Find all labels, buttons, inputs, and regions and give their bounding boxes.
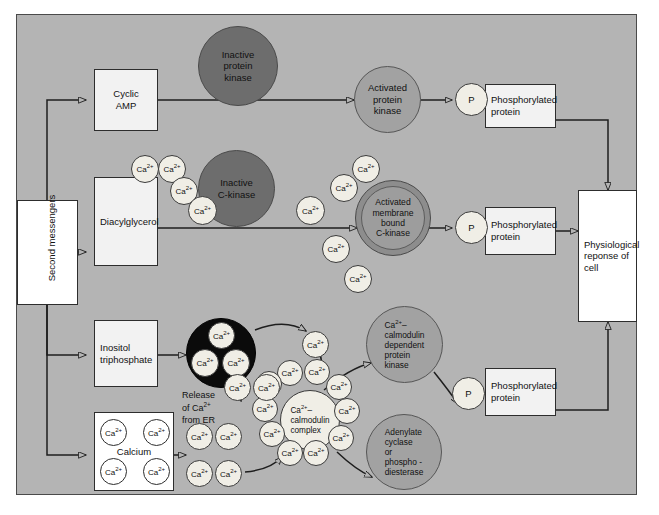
calcium-label: Calcium — [95, 446, 173, 458]
inositol-triphosphate-label: Inositol triphosphate — [95, 342, 155, 365]
circle-activated-protein-kinase[interactable]: Activated protein kinase — [354, 66, 421, 133]
calcium-ion-calmodulin-ring: Ca2+ — [303, 440, 329, 466]
circle-phosphate-2[interactable]: P — [455, 211, 488, 244]
calcium-ion-label: Ca2+ — [103, 427, 124, 438]
calcium-ion-ckinase: Ca2+ — [296, 196, 325, 225]
calcium-ion-boxed: Ca2+ — [100, 419, 127, 446]
cam-complex-label: Ca2+– calmodulin complex — [288, 404, 331, 435]
box-inositol-triphosphate[interactable]: Inositol triphosphate — [94, 320, 158, 387]
calcium-ion-ckinase: Ca2+ — [330, 174, 358, 202]
phosphate-label: P — [466, 94, 476, 105]
box-phosphorylated-protein-3[interactable]: Phosphorylated protein — [485, 368, 556, 416]
phosphate-label: P — [466, 222, 476, 233]
circle-inactive-protein-kinase[interactable]: Inactive protein kinase — [198, 26, 278, 106]
box-phosphorylated-protein-1[interactable]: Phosphorylated protein — [485, 84, 556, 128]
activated-protein-kinase-label: Activated protein kinase — [366, 82, 409, 116]
adenylate-cyclase-label: Adenylate cyclase or phospho - diesteras… — [383, 427, 426, 477]
calcium-ion-boxed: Ca2+ — [143, 458, 170, 485]
phosphorylated-protein-label: Phosphorylated protein — [486, 94, 560, 117]
diacylglycerol-label: Diacylglycerol — [95, 216, 162, 228]
calcium-ion-in-er: Ca2+ — [191, 349, 219, 377]
calcium-ion-free: Ca2+ — [224, 374, 251, 401]
calcium-ion-free: Ca2+ — [186, 423, 213, 450]
cam-dependent-kinase-label: Ca2+– calmodulin dependent protein kinas… — [382, 319, 426, 370]
calcium-ion-ckinase: Ca2+ — [344, 265, 372, 293]
calcium-ion-free: Ca2+ — [215, 460, 242, 487]
calcium-ion-free: Ca2+ — [215, 423, 242, 450]
inactive-c-kinase-label: Inactive C-kinase — [216, 177, 258, 200]
circle-adenylate-cyclase-or-phosphodiesterase[interactable]: Adenylate cyclase or phospho - diesteras… — [366, 414, 442, 490]
phosphorylated-protein-label: Phosphorylated protein — [486, 380, 560, 403]
circle-activated-membrane-bound-c-kinase[interactable]: Activated membrane bound C-kinase — [355, 180, 431, 256]
calcium-ion-ckinase: Ca2+ — [322, 235, 350, 263]
calcium-ion-ckinase: Ca2+ — [352, 155, 380, 183]
box-phosphorylated-protein-2[interactable]: Phosphorylated protein — [485, 207, 556, 255]
physiological-response-label: Physiological reponse of cell — [579, 239, 642, 274]
activated-c-kinase-label: Activated membrane bound C-kinase — [370, 197, 415, 238]
box-calcium[interactable]: Calcium Ca2+ Ca2+ Ca2+ Ca2+ — [94, 412, 174, 491]
second-messengers-label: Second messengers — [46, 219, 58, 286]
box-cyclic-amp[interactable]: Cyclic AMP — [94, 69, 158, 131]
calcium-ion-free: Ca2+ — [186, 460, 213, 487]
calcium-ion-calmodulin-ring: Ca2+ — [334, 398, 360, 424]
calcium-ion-calmodulin-ring: Ca2+ — [259, 421, 285, 447]
calcium-ion-in-er: Ca2+ — [208, 322, 235, 349]
calcium-ion-calmodulin-ring: Ca2+ — [326, 374, 352, 400]
box-physiological-response[interactable]: Physiological reponse of cell — [578, 190, 637, 322]
calcium-ion-boxed: Ca2+ — [143, 419, 170, 446]
calcium-ion-calmodulin-ring: Ca2+ — [277, 440, 303, 466]
diagram-canvas: Second messengers Cyclic AMP Diacylglyce… — [0, 0, 659, 515]
phosphate-label: P — [463, 388, 473, 399]
circle-phosphate-3[interactable]: P — [452, 377, 485, 410]
box-second-messengers[interactable]: Second messengers — [17, 200, 78, 305]
circle-phosphate-1[interactable]: P — [455, 83, 488, 116]
calcium-ion-free: Ca2+ — [302, 331, 329, 358]
phosphorylated-protein-label: Phosphorylated protein — [486, 219, 560, 242]
box-diacylglycerol[interactable]: Diacylglycerol — [94, 177, 158, 266]
inactive-protein-kinase-label: Inactive protein kinase — [220, 49, 257, 83]
calcium-ion-dag: Ca2+ — [188, 196, 217, 225]
calcium-ion-dag: Ca2+ — [131, 155, 159, 183]
circle-ca-calmodulin-dependent-protein-kinase[interactable]: Ca2+– calmodulin dependent protein kinas… — [366, 306, 443, 383]
calcium-ion-free: Ca2+ — [253, 374, 280, 401]
calcium-ion-in-er: Ca2+ — [222, 349, 250, 377]
calcium-ion-calmodulin-ring: Ca2+ — [328, 425, 354, 451]
cyclic-amp-label: Cyclic AMP — [95, 88, 157, 111]
calcium-ion-boxed: Ca2+ — [100, 458, 127, 485]
